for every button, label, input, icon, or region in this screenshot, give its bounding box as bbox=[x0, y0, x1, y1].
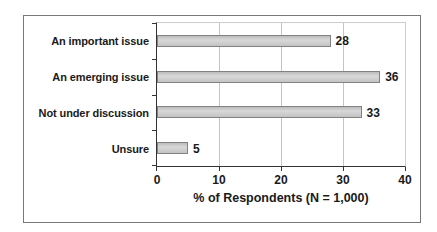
x-tick-label: 40 bbox=[398, 174, 411, 186]
y-axis-tick bbox=[152, 165, 157, 166]
category-label: An important issue bbox=[26, 36, 149, 47]
x-axis-tick bbox=[219, 167, 220, 171]
y-axis-tick bbox=[152, 59, 157, 60]
bar-value-label: 33 bbox=[367, 107, 380, 119]
bar bbox=[157, 106, 362, 118]
x-tick-label: 0 bbox=[154, 174, 161, 186]
category-label: Not under discussion bbox=[26, 107, 149, 118]
x-axis-tick bbox=[156, 167, 157, 171]
bar bbox=[157, 142, 188, 154]
y-axis-tick bbox=[152, 23, 157, 24]
y-axis-tick bbox=[152, 130, 157, 131]
y-axis-tick bbox=[152, 95, 157, 96]
chart-frame: % of Respondents (N = 1,000) 01020304028… bbox=[23, 15, 421, 223]
x-axis-tick bbox=[343, 167, 344, 171]
x-axis-tick bbox=[281, 167, 282, 171]
bar-value-label: 5 bbox=[193, 143, 200, 155]
bar bbox=[157, 35, 331, 47]
bar bbox=[157, 71, 380, 83]
x-tick-label: 30 bbox=[336, 174, 349, 186]
bar-value-label: 28 bbox=[336, 35, 349, 47]
bar-value-label: 36 bbox=[385, 71, 398, 83]
x-axis-tick bbox=[405, 167, 406, 171]
bar-chart-image: % of Respondents (N = 1,000) 01020304028… bbox=[0, 0, 437, 232]
x-axis-title: % of Respondents (N = 1,000) bbox=[157, 192, 405, 205]
x-tick-label: 20 bbox=[274, 174, 287, 186]
category-label: An emerging issue bbox=[26, 72, 149, 83]
category-label: Unsure bbox=[26, 143, 149, 154]
plot-area: % of Respondents (N = 1,000) 01020304028… bbox=[156, 22, 406, 167]
x-tick-label: 10 bbox=[212, 174, 225, 186]
